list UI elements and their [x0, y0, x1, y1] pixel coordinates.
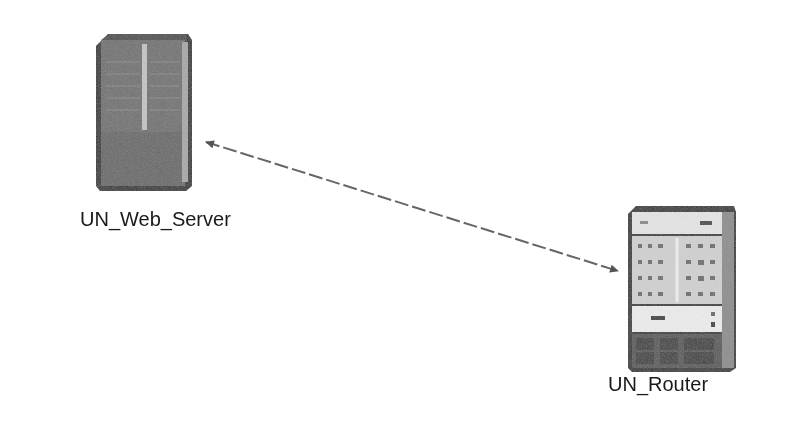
node-label-router: UN_Router [608, 373, 708, 396]
node-label-web-server: UN_Web_Server [80, 208, 231, 231]
router-icon[interactable] [628, 206, 736, 372]
server-icon[interactable] [96, 34, 192, 191]
link-web-server-router[interactable] [206, 142, 618, 271]
network-diagram-canvas: UN_Web_Server UN_Router [0, 0, 788, 436]
